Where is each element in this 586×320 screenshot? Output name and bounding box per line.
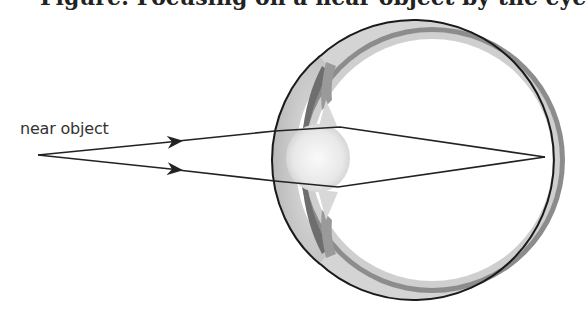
lens [286,124,350,192]
ray-lower-incoming [38,155,180,170]
ray-upper-incoming [38,141,180,155]
near-object-label: near object [20,119,109,138]
